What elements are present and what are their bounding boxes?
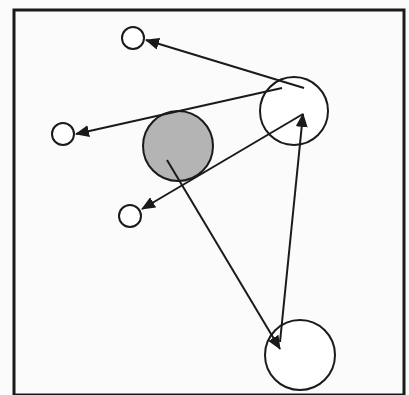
node-large-upper-right bbox=[260, 77, 328, 145]
edge-gray-to-bottom-arrow bbox=[167, 160, 280, 349]
node-small-left bbox=[52, 123, 74, 145]
diagram-canvas bbox=[0, 0, 409, 395]
node-small-top bbox=[122, 27, 144, 49]
network-diagram bbox=[0, 0, 409, 395]
edge-bottom-to-upper-right-arrow bbox=[280, 114, 303, 342]
diagram-frame bbox=[14, 10, 404, 395]
node-gray-center bbox=[143, 111, 213, 181]
node-large-bottom bbox=[265, 320, 335, 390]
edge-upper-right-to-top-arrow bbox=[146, 40, 304, 88]
node-small-lower bbox=[119, 205, 141, 227]
